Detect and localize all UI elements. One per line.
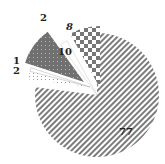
label-2-top: 2 <box>40 13 47 23</box>
label-8: 8 <box>66 22 73 32</box>
label-77: 77 <box>119 127 133 137</box>
label-10: 10 <box>58 47 72 57</box>
label-2-bottom: 2 <box>13 66 20 76</box>
pie-chart <box>0 0 165 164</box>
